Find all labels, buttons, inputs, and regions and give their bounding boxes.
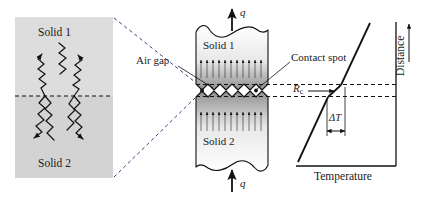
temperature-chart <box>296 22 409 166</box>
air-gap-label: Air gap <box>136 55 169 66</box>
figure-root: Solid 1 Solid 2 Solid 1 Solid 2 q q Air … <box>0 0 428 200</box>
temperature-axis-label: Temperature <box>314 171 372 183</box>
distance-axis-label: Distance <box>395 36 407 76</box>
solid1-body <box>196 26 268 90</box>
middle-solid2-label: Solid 2 <box>203 136 234 147</box>
contact-spot-label: Contact spot <box>291 52 346 63</box>
left-inset-panel <box>15 17 195 178</box>
heat-flux-bottom-label: q <box>240 178 246 189</box>
solid2-body <box>196 91 268 171</box>
middle-solid1-label: Solid 1 <box>203 40 234 51</box>
inset-solid2-label: Solid 2 <box>38 158 71 170</box>
profile-lower-branch <box>298 97 328 162</box>
rc-label: Rc <box>293 83 303 96</box>
delta-t-label: ΔT <box>329 113 341 124</box>
middle-panel <box>178 9 290 192</box>
heat-flux-top-label: q <box>240 7 246 18</box>
inset-solid1-label: Solid 1 <box>38 27 71 39</box>
rc-subscript: c <box>300 87 304 96</box>
rc-symbol: R <box>293 82 300 94</box>
inset-leader-lines <box>114 18 195 177</box>
